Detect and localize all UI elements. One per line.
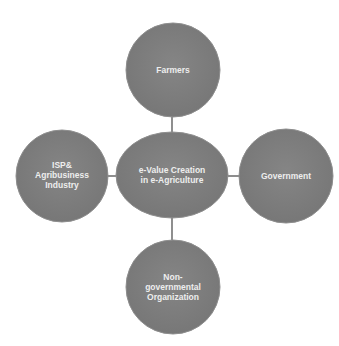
svg-text:governmental: governmental	[145, 282, 201, 292]
node-label: Farmers	[156, 65, 190, 75]
svg-text:Organization: Organization	[147, 292, 199, 302]
svg-text:Farmers: Farmers	[156, 65, 190, 75]
svg-text:Industry: Industry	[45, 180, 79, 190]
node-label: Industry	[45, 180, 79, 190]
node-center-e-value-creation: e-Value Creation in e-Agriculture	[116, 132, 228, 218]
svg-text:in e-Agriculture: in e-Agriculture	[141, 175, 204, 185]
node-label: Agribusiness	[35, 170, 89, 180]
node-label: Government	[261, 171, 311, 181]
node-label: Non-	[163, 272, 183, 282]
node-government: Government	[239, 129, 333, 223]
diagram-canvas: Farmers e-Value Creation in e-Agricultur…	[0, 0, 339, 346]
node-label: in e-Agriculture	[141, 175, 204, 185]
svg-text:ISP&: ISP&	[52, 160, 72, 170]
node-label: Organization	[147, 292, 199, 302]
node-label: governmental	[145, 282, 201, 292]
node-label: ISP&	[52, 160, 72, 170]
node-farmers: Farmers	[126, 23, 220, 117]
node-label: e-Value Creation	[139, 165, 206, 175]
svg-text:e-Value Creation: e-Value Creation	[139, 165, 206, 175]
node-non-governmental-organization: Non- governmental Organization	[126, 240, 220, 334]
svg-text:Non-: Non-	[163, 272, 183, 282]
svg-text:Government: Government	[261, 171, 311, 181]
svg-text:Agribusiness: Agribusiness	[35, 170, 89, 180]
node-isp-agribusiness: ISP& Agribusiness Industry	[16, 130, 108, 222]
